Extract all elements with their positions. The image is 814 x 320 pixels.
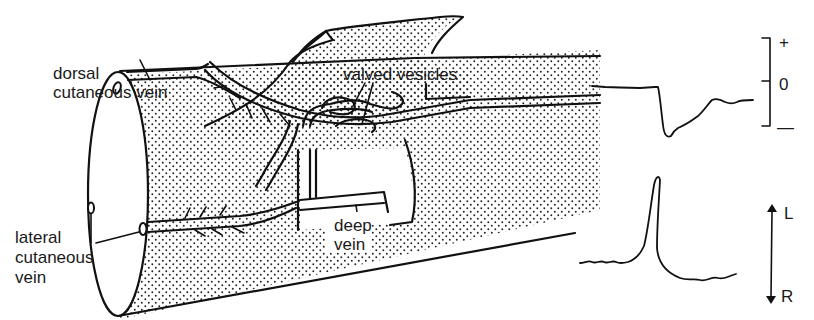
label-lateral-line3: vein xyxy=(15,268,46,287)
scale-label-zero: 0 xyxy=(779,75,788,94)
bottom-trace-line xyxy=(580,177,736,280)
top-trace-panel: + 0 — xyxy=(592,33,794,137)
arrow-up-icon xyxy=(767,204,777,212)
label-lateral-line2: cutaneous xyxy=(15,248,93,267)
direction-arrow-shaft xyxy=(771,211,772,297)
lateral-vein-opening-2 xyxy=(88,203,94,214)
cylinder-front-face xyxy=(88,72,148,316)
label-valved-vesicles: valved vesicles xyxy=(343,65,457,84)
deep-vein-tick xyxy=(356,205,357,212)
top-trace-scale-bracket xyxy=(762,38,770,126)
scale-label-plus: + xyxy=(779,33,789,52)
label-deep-line2: vein xyxy=(334,235,365,254)
label-dorsal-line2: cutaneous vein xyxy=(53,83,167,102)
direction-arrow xyxy=(766,204,777,304)
scale-label-minus: — xyxy=(777,118,794,137)
vein-diagram-figure: dorsal cutaneous vein valved vesicles la… xyxy=(0,0,814,320)
label-dorsal-line1: dorsal xyxy=(53,64,99,83)
direction-label-L: L xyxy=(784,204,793,223)
top-trace-line xyxy=(592,86,753,137)
lateral-vein-opening xyxy=(140,223,147,235)
arrow-down-icon xyxy=(766,296,776,304)
bottom-trace-panel: L R xyxy=(580,177,793,306)
direction-label-R: R xyxy=(781,287,793,306)
label-deep-line1: deep xyxy=(334,216,372,235)
label-lateral-line1: lateral xyxy=(15,228,61,247)
